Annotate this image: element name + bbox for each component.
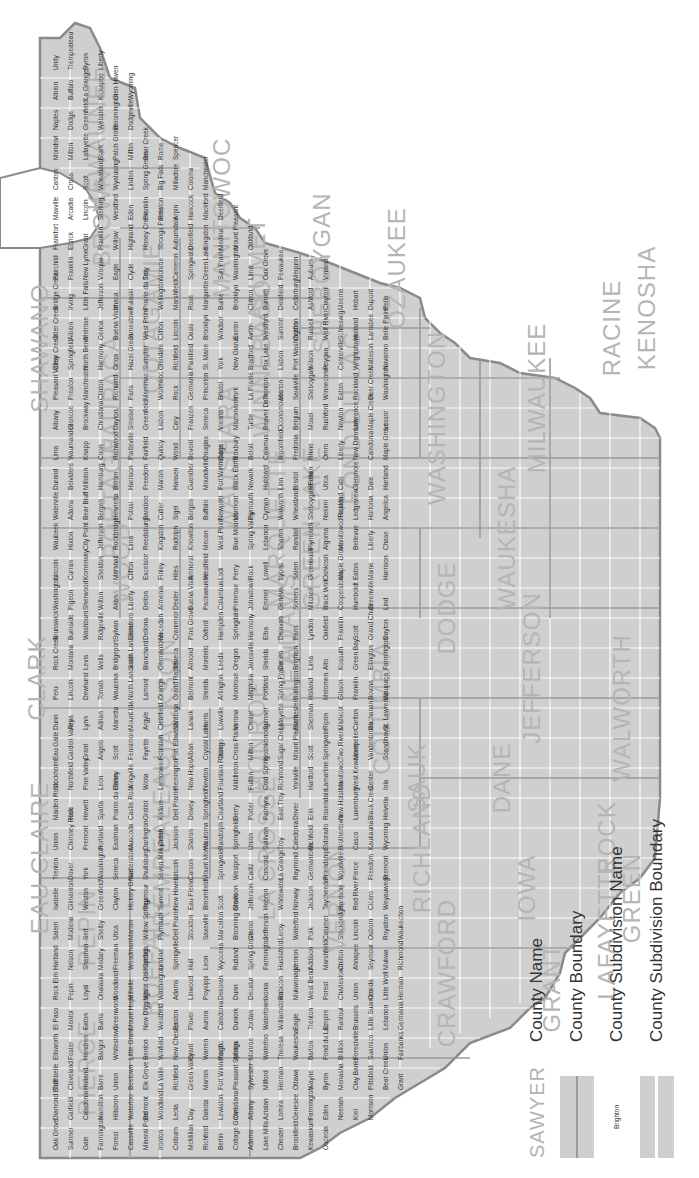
subdivision-label: Dale — [367, 476, 374, 490]
subdivision-label: Reedsburg — [142, 518, 150, 550]
subdivision-label: Exeter — [232, 320, 239, 340]
subdivision-label: Forest — [322, 981, 329, 1000]
legend-swatch-county-boundary — [560, 1076, 594, 1158]
subdivision-label: Ridgeville — [97, 611, 105, 640]
legend-row-county-boundary: County Boundary — [560, 911, 594, 1158]
subdivision-label: Lincoln — [82, 199, 89, 220]
subdivision-label: Jefferson — [97, 283, 104, 310]
subdivision-label: Benton — [142, 1039, 149, 1060]
subdivision-label: Mitchell — [307, 587, 314, 610]
subdivision-label: Day — [187, 1108, 195, 1120]
subdivision-label: Alto — [322, 658, 329, 670]
subdivision-label: Black Wolf — [322, 579, 329, 610]
subdivision-label: Knowlton — [187, 523, 194, 550]
subdivision-label: Belvidere — [67, 463, 74, 490]
subdivision-label: Frankfort — [52, 224, 59, 250]
subdivision-label: Merrimac — [142, 372, 149, 400]
subdivision-label: Windsor — [217, 315, 224, 340]
subdivision-label: Burlington — [292, 670, 300, 700]
subdivision-label: Millston — [82, 468, 89, 490]
subdivision-label: Plover — [187, 1011, 194, 1030]
subdivision-label: Verona — [232, 709, 239, 730]
subdivision-label: Empire — [322, 1009, 330, 1030]
subdivision-label: Cicero — [367, 891, 374, 910]
subdivision-label: Palmyra — [262, 796, 270, 820]
subdivision-label: Sheboygan — [307, 367, 315, 400]
subdivision-label: Kickapoo — [97, 73, 105, 100]
subdivision-label: Lowell — [262, 561, 269, 580]
subdivision-label: Albion — [232, 1042, 239, 1060]
subdivision-label: Waterford — [292, 911, 299, 940]
subdivision-label: Lamont — [142, 678, 149, 700]
subdivision-label: Ledgeview — [352, 489, 360, 520]
subdivision-label: Scott — [307, 745, 314, 760]
subdivision-label: Brunswick — [52, 610, 59, 640]
subdivision-label: Herman — [307, 466, 314, 490]
subdivision-label: Fennimore — [127, 729, 134, 760]
subdivision-label: Freedom — [142, 464, 149, 490]
subdivision-label: Union — [352, 983, 359, 1000]
subdivision-label: Beloit — [247, 444, 254, 460]
subdivision-label: Woodland — [112, 970, 119, 1000]
subdivision-label: Kingston — [157, 524, 165, 550]
subdivision-label: Wyocena — [217, 943, 225, 970]
subdivision-label: Salem — [292, 562, 299, 580]
subdivision-label: Wellington — [157, 279, 165, 310]
subdivision-label: Linn — [277, 477, 284, 490]
subdivision-label: Burnett — [262, 289, 269, 310]
subdivision-label: Richwood — [112, 431, 119, 460]
subdivision-label: Jordan — [247, 1010, 254, 1030]
subdivision-label: Necedah — [157, 614, 164, 640]
subdivision-label: Sherwood — [82, 580, 89, 610]
subdivision-label: Dellona — [142, 618, 149, 640]
subdivision-label: Caledonia — [217, 1000, 224, 1030]
subdivision-label: Princeton — [202, 372, 209, 400]
subdivision-label: Dekorah — [217, 975, 224, 1000]
subdivision-label: Seymour — [142, 883, 150, 910]
subdivision-label: Walworth — [277, 493, 284, 520]
subdivision-label: Levis — [82, 654, 89, 670]
subdivision-label: Christiana — [97, 400, 104, 430]
subdivision-label: Westfield — [157, 1003, 164, 1030]
subdivision-label: Pine Valley — [82, 757, 90, 790]
subdivision-label: Hamburg — [97, 463, 105, 490]
subdivision-label: Center — [247, 710, 254, 730]
subdivision-label: Hiles — [172, 565, 179, 580]
subdivision-label: Madison — [232, 885, 239, 910]
subdivision-label: Dover — [292, 802, 299, 820]
subdivision-label: Dell Prairie — [172, 788, 179, 820]
subdivision-label: Cary — [172, 416, 180, 430]
county-label: CRAWFORD — [433, 899, 460, 1047]
subdivision-label: Otter Creek — [52, 306, 59, 340]
subdivision-label: Belmont — [142, 1096, 149, 1120]
subdivision-label: Onalaska — [97, 972, 104, 1000]
subdivision-label: Oasis — [187, 323, 194, 340]
subdivision-label: Rome — [157, 142, 164, 160]
subdivision-label: Preston — [157, 197, 164, 220]
subdivision-label: Berlin — [217, 1133, 224, 1150]
subdivision-label: Farmington — [307, 1087, 315, 1120]
subdivision-label: Waupaca — [382, 672, 390, 700]
subdivision-label: Trenton — [262, 377, 269, 400]
subdivision-label: McMillan — [187, 1124, 194, 1150]
subdivision-label: Richland — [112, 374, 119, 400]
subdivision-label: Seymour — [367, 943, 375, 970]
subdivision-label: Rochester — [292, 700, 299, 730]
subdivision-label: Franklin — [67, 256, 74, 280]
county-label: JEFFERSON — [518, 592, 545, 744]
subdivision-label: Hansen — [172, 467, 179, 490]
subdivision-label: Tomah — [97, 680, 104, 700]
legend-row-subdivision-boundary: County Subdivision Boundary — [640, 819, 674, 1158]
county-label: DANE — [488, 743, 515, 814]
subdivision-label: Bristol — [292, 471, 299, 490]
subdivision-label: Hartford — [307, 766, 314, 790]
subdivision-label: Randolph — [217, 822, 225, 850]
subdivision-label: Mukwa — [382, 949, 389, 970]
subdivision-label: Otsego — [217, 739, 225, 760]
subdivision-label: Portland — [97, 825, 104, 850]
subdivision-label: Deerfield — [187, 224, 194, 250]
subdivision-label: Bergen — [97, 499, 105, 520]
subdivision-label: Viroqua — [97, 257, 105, 280]
subdivision-label: Rushford — [322, 403, 329, 430]
subdivision-label: Washburn — [82, 610, 89, 640]
